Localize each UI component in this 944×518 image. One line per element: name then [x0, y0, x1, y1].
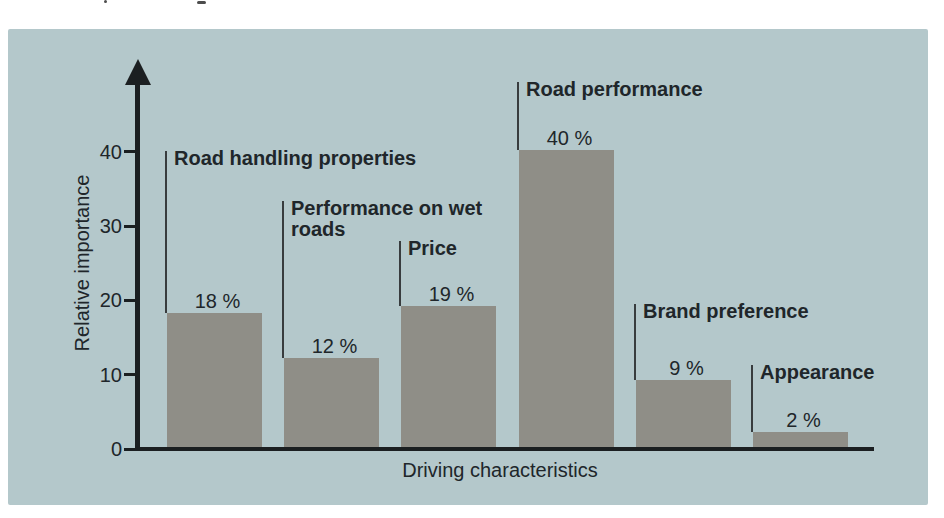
cropped-text-artifact	[197, 1, 206, 4]
bar-value-label: 12 %	[267, 336, 402, 356]
bar-category-label: Road performance	[526, 79, 703, 100]
bar-value-label: 18 %	[150, 291, 285, 311]
y-tick-label: 20	[58, 289, 122, 311]
y-tick-mark	[124, 448, 137, 451]
bar-category-label: Price	[408, 238, 457, 259]
y-axis-line	[135, 82, 140, 451]
bar	[636, 380, 731, 447]
bar-category-label: Performance on wet roads	[291, 198, 482, 240]
bar	[167, 313, 262, 447]
x-axis-line	[135, 447, 874, 451]
bar-value-label: 2 %	[736, 410, 871, 430]
bar-leader-line	[282, 201, 284, 358]
bar	[753, 432, 848, 447]
bar	[284, 358, 379, 447]
y-tick-label: 0	[58, 438, 122, 460]
cropped-text-artifact	[104, 0, 107, 3]
bar	[401, 306, 496, 447]
bar-category-label: Road handling properties	[174, 148, 416, 169]
bar-value-label: 40 %	[502, 128, 637, 148]
y-tick-mark	[124, 299, 137, 302]
y-tick-label: 10	[58, 364, 122, 386]
y-tick-mark	[124, 150, 137, 153]
x-axis-title: Driving characteristics	[350, 459, 650, 481]
y-tick-mark	[124, 225, 137, 228]
bar-value-label: 19 %	[384, 284, 519, 304]
figure-scan-page: Relative importance Driving characterist…	[0, 0, 944, 518]
bar-category-label: Appearance	[760, 362, 875, 383]
bar-value-label: 9 %	[619, 358, 754, 378]
bar-leader-line	[165, 151, 167, 313]
bar-category-label: Brand preference	[643, 301, 809, 322]
y-tick-mark	[124, 373, 137, 376]
y-tick-label: 30	[58, 215, 122, 237]
bar	[519, 150, 614, 447]
y-tick-label: 40	[58, 141, 122, 163]
